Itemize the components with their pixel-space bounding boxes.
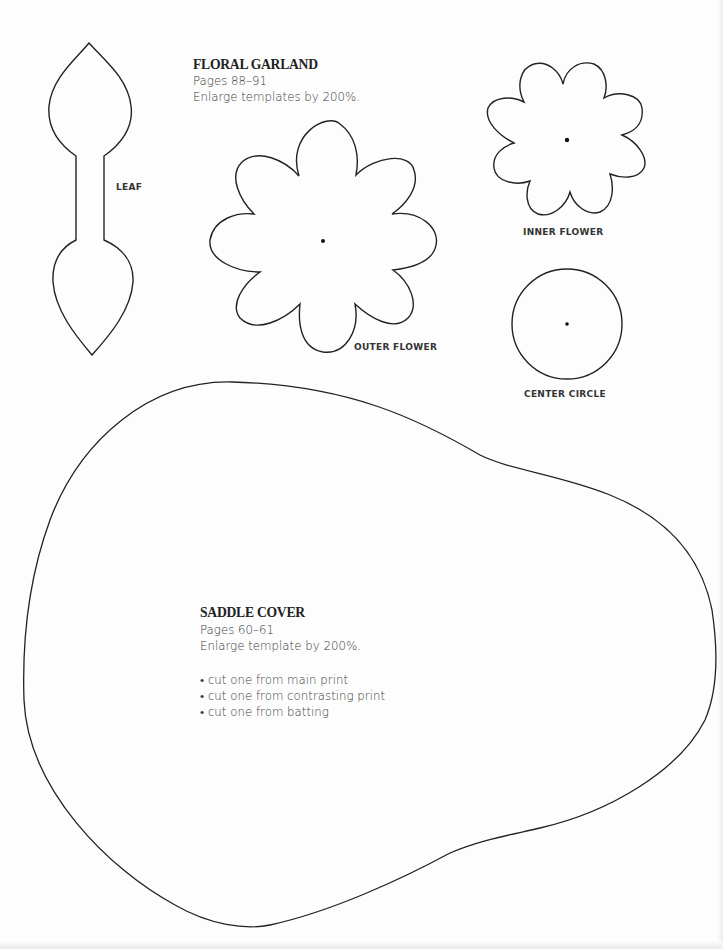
center-circle-center-dot	[565, 322, 569, 326]
floral-garland-title: FLORAL GARLAND	[193, 55, 318, 73]
center-circle-label: CENTER CIRCLE	[524, 389, 606, 399]
saddle-cover-title: SADDLE COVER	[200, 603, 305, 621]
saddle-cover-cut-item: • cut one from contrasting print	[200, 689, 385, 703]
saddle-cover-pages: Pages 60–61	[200, 623, 274, 637]
saddle-cover-cut-item: • cut one from main print	[200, 673, 348, 687]
floral-garland-instruction: Enlarge templates by 200%.	[193, 90, 360, 104]
leaf-template-outline	[49, 43, 133, 355]
outer-flower-center-dot	[321, 239, 325, 243]
saddle-cover-cut-item: • cut one from batting	[200, 705, 329, 719]
outer-flower-template-outline	[210, 121, 437, 352]
inner-flower-center-dot	[565, 138, 569, 142]
outer-flower-label: OUTER FLOWER	[354, 342, 437, 352]
leaf-label: LEAF	[116, 182, 142, 192]
inner-flower-label: INNER FLOWER	[523, 227, 603, 237]
floral-garland-pages: Pages 88–91	[193, 74, 267, 88]
template-outlines	[0, 0, 723, 949]
saddle-cover-instruction: Enlarge template by 200%.	[200, 639, 361, 653]
saddle-cover-template-outline	[24, 382, 716, 927]
